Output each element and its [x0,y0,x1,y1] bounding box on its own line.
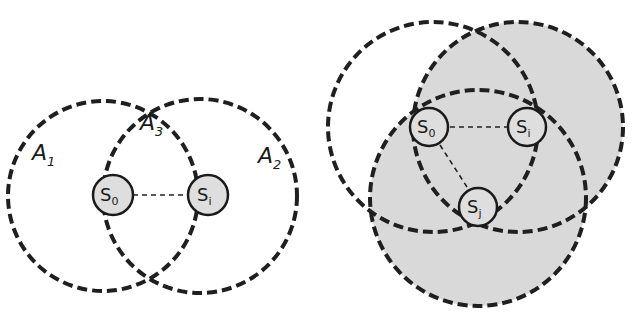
node-si: Si [188,175,228,215]
region-label-a2: A2 [256,143,281,172]
node-s0: S0 [410,108,448,146]
region-label-a1: A1 [30,140,55,169]
left-diagram: S0 Si A1 A3 A2 [8,99,297,293]
node-s0: S0 [93,175,133,215]
region-label-a3: A3 [138,110,163,139]
node-sj: Sj [459,188,497,226]
right-diagram: S0 Si Sj [328,22,623,306]
node-si: Si [508,108,546,146]
diagram-canvas: S0 Si A1 A3 A2 S0 Si Sj [0,0,637,327]
